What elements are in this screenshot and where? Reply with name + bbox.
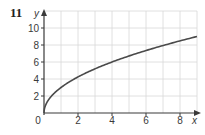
y-tick-label: 10 [28,23,40,34]
y-tick-label: 6 [33,57,39,68]
tick-labels: 02468246810 [28,23,183,127]
x-tick-label: 8 [177,115,183,126]
axes [41,9,201,116]
x-tick-label: 2 [75,115,81,126]
y-axis-label: y [33,8,40,19]
x-tick-label: 0 [35,115,41,126]
curve-line [44,37,197,114]
y-tick-label: 4 [33,74,39,85]
x-tick-label: 6 [143,115,149,126]
x-tick-label: 4 [109,115,115,126]
grid-lines [44,11,197,113]
y-tick-label: 2 [33,91,39,102]
x-axis-label: x [191,115,198,126]
y-tick-label: 8 [33,40,39,51]
y-axis-arrow-icon [41,9,47,16]
chart: 02468246810 x y [0,0,205,135]
